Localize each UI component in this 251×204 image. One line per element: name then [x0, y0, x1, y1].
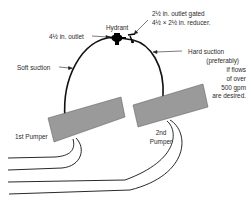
small-outlet-label-line1: 2½ in. outlet gated: [152, 10, 205, 17]
large-outlet-label: 4½ in. outlet: [49, 33, 84, 40]
pumper-1-discharge-lines: [8, 138, 81, 170]
gate-valve-icon: [128, 34, 135, 43]
hard-suction-label-line4: of over: [168, 75, 246, 82]
diagram-canvas: Hydrant 4½ in. outlet 2½ in. outlet gate…: [0, 0, 251, 204]
hard-suction-label-line3: if flows: [168, 66, 246, 73]
small-outlet-label-line2: 4½ × 2½ in. reducer.: [152, 19, 210, 26]
hydrant-label: Hydrant: [106, 24, 128, 31]
pumper-2-label-line1: 2nd: [146, 129, 176, 136]
hard-suction-label-line5: 500 gpm: [168, 84, 246, 91]
pumper-2-label-line2: Pumper: [146, 138, 176, 145]
pumper-1-label: 1st Pumper: [15, 133, 48, 140]
hard-suction-label-line6: are desired.: [168, 92, 246, 99]
hard-suction-label-line1: Hard suction: [168, 48, 224, 55]
hard-suction-hose: [133, 40, 163, 97]
soft-suction-label: Soft suction: [17, 64, 50, 71]
hard-suction-label-line2: (preferably): [168, 57, 239, 64]
pumper-1-body: [48, 97, 125, 142]
